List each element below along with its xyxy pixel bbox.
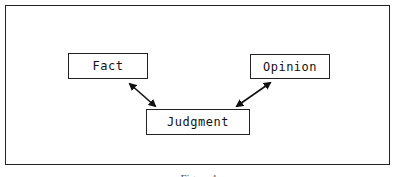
edges-layer [0,0,398,177]
figure-caption: Figure 1 [0,172,398,177]
edge-fact-judgment-arrow [130,84,155,106]
edge-opinion-judgment-arrow [237,83,270,106]
